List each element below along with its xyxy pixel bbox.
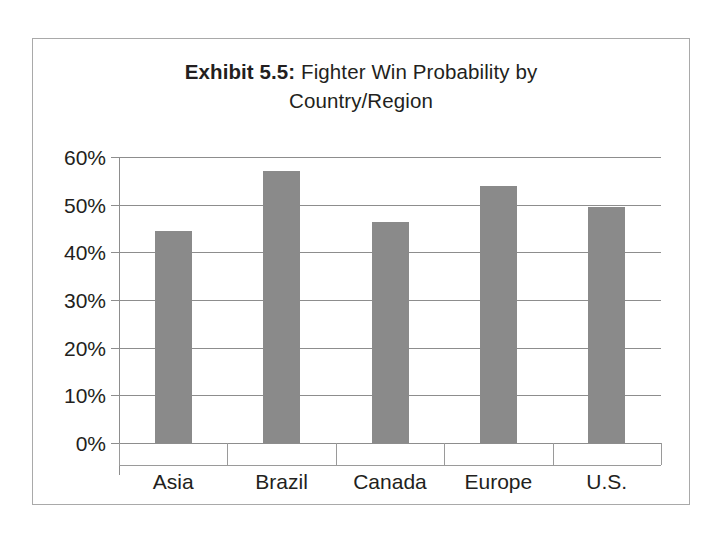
category-label-brazil: Brazil <box>227 469 335 494</box>
chart-figure-frame: Exhibit 5.5: Fighter Win Probability by … <box>32 38 690 505</box>
category-axis-tick <box>336 443 337 465</box>
y-axis-tick-label: 60% <box>64 147 106 168</box>
y-axis-tick-label: 50% <box>64 194 106 215</box>
y-axis-tick-label: 20% <box>64 337 106 358</box>
y-axis-tick-mark <box>111 252 119 253</box>
chart-title-line2-text: Country/Region <box>289 89 433 112</box>
category-label-asia: Asia <box>119 469 227 494</box>
y-axis-tick-label: 0% <box>76 433 106 454</box>
y-axis-tick-mark <box>111 443 119 444</box>
bar-us <box>588 207 625 443</box>
chart-title: Exhibit 5.5: Fighter Win Probability by … <box>33 57 689 115</box>
category-label-europe: Europe <box>444 469 552 494</box>
category-axis: AsiaBrazilCanadaEuropeU.S. <box>119 443 661 499</box>
bar-asia <box>155 231 192 443</box>
category-axis-tick <box>227 443 228 465</box>
category-axis-line <box>119 465 661 466</box>
category-axis-tick <box>444 443 445 465</box>
y-axis-tick-mark <box>111 205 119 206</box>
y-axis-tick-label: 30% <box>64 290 106 311</box>
chart-title-line1-text: Fighter Win Probability by <box>295 60 537 83</box>
bar-canada <box>372 222 409 443</box>
category-axis-tick <box>661 443 662 465</box>
plot-area: 0%10%20%30%40%50%60% <box>119 157 661 443</box>
category-label-us: U.S. <box>553 469 661 494</box>
gridline-50 <box>119 205 661 206</box>
category-label-canada: Canada <box>336 469 444 494</box>
y-axis-tick-mark <box>111 300 119 301</box>
y-axis-tick-label: 10% <box>64 385 106 406</box>
category-axis-tick <box>553 443 554 465</box>
y-axis-tick-mark <box>111 348 119 349</box>
y-axis-tick-mark <box>111 157 119 158</box>
y-axis-tick-mark <box>111 395 119 396</box>
gridline-60 <box>119 157 661 158</box>
bar-europe <box>480 186 517 443</box>
bar-brazil <box>263 171 300 443</box>
chart-title-exhibit-label: Exhibit 5.5: <box>185 60 296 83</box>
y-axis-tick-label: 40% <box>64 242 106 263</box>
category-axis-tick <box>119 443 120 465</box>
